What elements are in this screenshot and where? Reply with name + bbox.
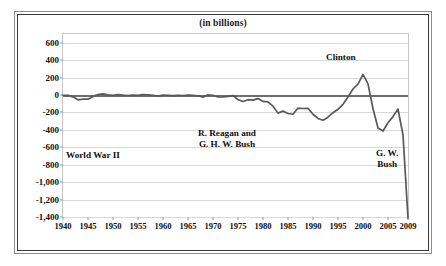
x-tick-label: 1990: [304, 221, 321, 231]
x-tick-mark: [388, 217, 389, 220]
x-tick-label: 2000: [354, 221, 371, 231]
x-tick-mark: [288, 217, 289, 220]
x-tick-mark: [213, 217, 214, 220]
x-tick-mark: [263, 217, 264, 220]
x-tick-label: 1960: [154, 221, 171, 231]
x-tick-label: 1945: [79, 221, 96, 231]
x-tick-mark: [63, 217, 64, 220]
x-tick-mark: [113, 217, 114, 220]
y-tick-label: -1,000: [36, 177, 59, 187]
y-tick-label: 400: [46, 55, 60, 65]
data-series-line: [63, 34, 408, 217]
y-tick-label: 600: [46, 38, 60, 48]
annotation-reagan-ghw-bush: R. Reagan and G. H. W. Bush: [198, 128, 256, 150]
x-tick-mark: [188, 217, 189, 220]
y-tick-label: 200: [46, 73, 60, 83]
x-tick-label: 1955: [129, 221, 146, 231]
x-tick-mark: [163, 217, 164, 220]
x-tick-label: 1985: [279, 221, 296, 231]
y-tick-label: -1,200: [36, 195, 59, 205]
x-tick-label: 1970: [204, 221, 221, 231]
chart-title: (in billions): [0, 18, 446, 28]
x-tick-label: 2005: [379, 221, 396, 231]
x-tick-mark: [138, 217, 139, 220]
y-tick-label: 0: [55, 90, 60, 100]
x-tick-mark: [88, 217, 89, 220]
x-tick-label: 1975: [229, 221, 246, 231]
x-tick-mark: [238, 217, 239, 220]
x-tick-mark: [313, 217, 314, 220]
y-tick-label: -200: [43, 107, 60, 117]
x-tick-label: 2009: [399, 221, 416, 231]
x-tick-label: 1950: [104, 221, 121, 231]
y-tick-label: -800: [43, 160, 60, 170]
y-tick-label: -400: [43, 125, 60, 135]
annotation-gw-bush: G. W. Bush: [376, 148, 398, 170]
x-tick-label: 1940: [54, 221, 71, 231]
x-tick-label: 1965: [179, 221, 196, 231]
x-tick-mark: [363, 217, 364, 220]
annotation-clinton: Clinton: [326, 52, 356, 63]
x-tick-label: 1995: [329, 221, 346, 231]
y-tick-label: -600: [43, 142, 60, 152]
annotation-world-war-ii: World War II: [66, 150, 120, 161]
plot-area: 6004002000-200-400-600-800-1,000-1,200-1…: [62, 33, 409, 218]
gridline: [63, 217, 408, 218]
x-tick-mark: [338, 217, 339, 220]
chart-figure: (in billions) 6004002000-200-400-600-800…: [0, 0, 446, 266]
x-tick-label: 1980: [254, 221, 271, 231]
